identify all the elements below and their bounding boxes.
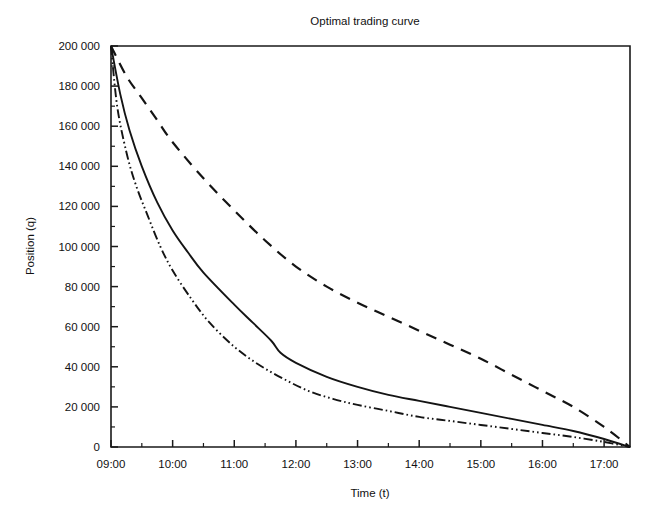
- y-tick-label: 0: [94, 441, 100, 453]
- chart-page: Optimal trading curve 020 00040 00060 00…: [0, 0, 665, 514]
- plot-frame: [111, 46, 630, 447]
- x-tick-label: 17:00: [590, 458, 619, 470]
- y-tick-label: 40 000: [65, 361, 100, 373]
- y-tick-label: 20 000: [65, 401, 100, 413]
- y-axis-title: Position (q): [24, 217, 36, 275]
- y-tick-label: 60 000: [65, 321, 100, 333]
- y-axis-ticks: 020 00040 00060 00080 000100 000120 0001…: [58, 40, 118, 453]
- series-slow-liquidation-curve: [111, 46, 630, 447]
- y-tick-label: 120 000: [58, 200, 100, 212]
- y-tick-label: 140 000: [58, 160, 100, 172]
- series-paths: [111, 46, 630, 447]
- x-tick-label: 16:00: [528, 458, 557, 470]
- optimal-trading-curve-chart: Optimal trading curve 020 00040 00060 00…: [0, 0, 665, 514]
- y-tick-label: 160 000: [58, 120, 100, 132]
- x-tick-label: 12:00: [282, 458, 311, 470]
- x-tick-label: 10:00: [158, 458, 187, 470]
- y-tick-label: 180 000: [58, 80, 100, 92]
- x-tick-label: 09:00: [97, 458, 126, 470]
- x-axis-ticks: 09:0010:0011:0012:0013:0014:0015:0016:00…: [97, 440, 619, 470]
- x-tick-label: 11:00: [220, 458, 248, 470]
- x-tick-label: 13:00: [343, 458, 372, 470]
- x-axis-title: Time (t): [350, 487, 389, 499]
- series-intermediate-liquidation-curve: [111, 46, 630, 447]
- x-tick-label: 14:00: [405, 458, 434, 470]
- y-tick-label: 100 000: [58, 241, 100, 253]
- y-tick-label: 80 000: [65, 281, 100, 293]
- x-tick-label: 15:00: [466, 458, 495, 470]
- y-tick-label: 200 000: [58, 40, 100, 52]
- chart-title: Optimal trading curve: [310, 15, 419, 27]
- series-fast-liquidation-curve: [111, 46, 630, 447]
